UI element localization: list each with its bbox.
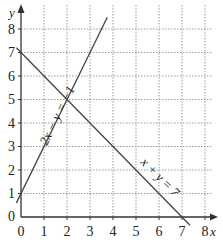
- x-axis-label: x: [209, 224, 216, 239]
- x-tick-3: 3: [87, 224, 94, 239]
- y-tick-2: 2: [8, 163, 15, 178]
- label-2x-minus-y: 2x − y = −1: [36, 83, 77, 147]
- y-axis-label: y: [7, 5, 15, 20]
- y-tick-4: 4: [8, 116, 15, 131]
- x-tick-0: 0: [18, 224, 25, 239]
- x-tick-1: 1: [41, 224, 48, 239]
- x-tick-6: 6: [156, 224, 163, 239]
- x-tick-5: 5: [133, 224, 140, 239]
- x-tick-labels: 0 1 2 3 4 5 6 7 8: [18, 224, 209, 239]
- x-tick-2: 2: [64, 224, 71, 239]
- y-tick-1: 1: [8, 186, 15, 201]
- y-tick-0: 0: [8, 209, 15, 224]
- y-tick-5: 5: [8, 92, 15, 107]
- y-tick-7: 7: [8, 45, 15, 60]
- y-tick-8: 8: [8, 22, 15, 37]
- y-axis-arrow-icon: [18, 4, 25, 13]
- y-tick-6: 6: [8, 69, 15, 84]
- x-tick-8: 8: [202, 224, 209, 239]
- label-x-plus-y: x + y = 7: [137, 154, 183, 200]
- x-axis-arrow-icon: [210, 214, 218, 221]
- x-tick-7: 7: [179, 224, 186, 239]
- graph: 0 1 2 3 4 5 6 7 8 0 1 2 3 4 5 6 7 8 x y …: [0, 0, 223, 242]
- y-tick-labels: 0 1 2 3 4 5 6 7 8: [8, 22, 15, 225]
- x-tick-4: 4: [110, 224, 117, 239]
- y-tick-3: 3: [8, 139, 15, 154]
